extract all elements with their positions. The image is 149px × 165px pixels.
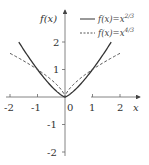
y-tick-label: 1 [53,64,59,75]
y-tick-label: -2 [47,147,57,158]
legend: f(x)=x2/3 f(x)=x4/3 [80,12,134,38]
y-tick-label: -1 [47,119,57,130]
origin-label: 0 [67,102,73,113]
x-tick-label: -1 [31,102,41,113]
legend-dashed-label: f(x)=x4/3 [97,26,134,38]
x-tick-label: 2 [117,102,123,113]
y-tick-label: 2 [53,37,59,48]
chart: -2 -1 0 1 2 x 2 1 -1 -2 f(x) f(x)=x2/3 f… [0,0,149,165]
x-tick-label: -2 [4,102,14,113]
y-axis-label: f(x) [39,13,57,24]
legend-solid-label: f(x)=x2/3 [97,12,134,24]
x-tick-label: 1 [89,102,95,113]
x-axis-label: x [133,102,139,113]
